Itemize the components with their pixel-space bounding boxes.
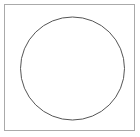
geometric-figure-svg (0, 0, 140, 137)
square-frame-shape (5, 5, 135, 131)
figure-canvas (0, 0, 140, 137)
circle-outline-shape (21, 17, 125, 120)
